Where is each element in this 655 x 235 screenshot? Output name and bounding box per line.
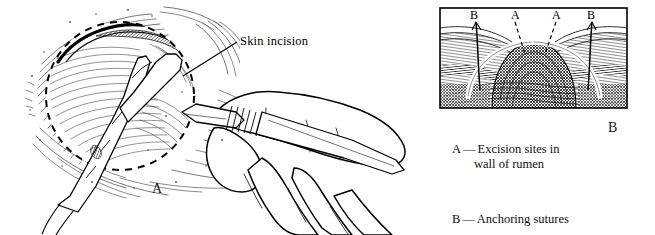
panel-a-drawing	[0, 0, 420, 235]
legend-dash-b: —	[460, 212, 477, 226]
inbox-label-a-left: A	[511, 8, 520, 23]
panel-a-illustration: Skin incision A	[0, 0, 420, 235]
legend-dash-a: —	[461, 142, 478, 156]
legend-text-b-line1: Anchoring sutures	[477, 212, 569, 226]
legend: A—Excision sites in wall of rumen B—Anch…	[452, 126, 627, 227]
legend-key-a: A	[452, 142, 461, 156]
legend-entry-a: A—Excision sites in wall of rumen	[452, 126, 627, 188]
inbox-label-a-right: A	[552, 8, 561, 23]
skin-incision-leader-line	[183, 42, 237, 76]
legend-entry-b: B—Anchoring sutures	[452, 196, 627, 227]
figure-root: Skin incision A	[0, 0, 655, 235]
inbox-label-b-left: B	[470, 8, 478, 23]
panel-a-letter: A	[152, 181, 162, 197]
legend-text-a-line2: wall of rumen	[452, 157, 627, 173]
legend-text-a-line1: Excision sites in	[478, 142, 560, 156]
inbox-label-b-right: B	[587, 8, 595, 23]
skin-incision-label: Skin incision	[240, 35, 308, 48]
